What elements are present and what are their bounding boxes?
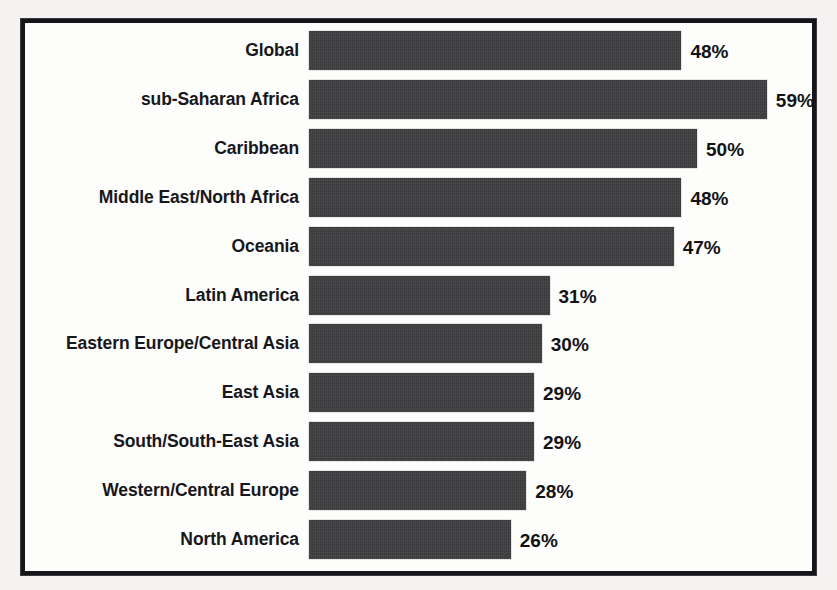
bar-row: Oceania47% <box>25 227 812 266</box>
bar-value-label: 59% <box>767 80 814 119</box>
bar <box>309 324 542 363</box>
bar-track: Caribbean50% <box>309 129 812 168</box>
bar <box>309 373 534 412</box>
bar-value-label: 47% <box>674 227 721 266</box>
bar-row: South/South-East Asia29% <box>25 422 812 461</box>
bar-row: North America26% <box>25 520 812 559</box>
bar-row: Middle East/North Africa48% <box>25 178 812 217</box>
bar-row: East Asia29% <box>25 373 812 412</box>
bar-row: Caribbean50% <box>25 129 812 168</box>
category-label: Middle East/North Africa <box>99 178 309 217</box>
bar-track: Latin America31% <box>309 276 812 315</box>
bar <box>309 422 534 461</box>
bar-row: sub-Saharan Africa59% <box>25 80 812 119</box>
bar-row: Western/Central Europe28% <box>25 471 812 510</box>
bar <box>309 129 697 168</box>
bar-row: Global48% <box>25 31 812 70</box>
category-label: East Asia <box>222 373 309 412</box>
plot-area: Global48%sub-Saharan Africa59%Caribbean5… <box>25 23 812 571</box>
category-label: Eastern Europe/Central Asia <box>66 324 309 363</box>
bar-value-label: 31% <box>550 276 597 315</box>
bar-row: Eastern Europe/Central Asia30% <box>25 324 812 363</box>
category-label: South/South-East Asia <box>113 422 309 461</box>
bar-value-label: 29% <box>534 373 581 412</box>
bar <box>309 178 681 217</box>
category-label: sub-Saharan Africa <box>141 80 309 119</box>
bar-value-label: 29% <box>534 422 581 461</box>
category-label: Latin America <box>185 276 309 315</box>
bar-value-label: 48% <box>681 178 728 217</box>
bar <box>309 80 767 119</box>
bar-track: Oceania47% <box>309 227 812 266</box>
bar-track: Middle East/North Africa48% <box>309 178 812 217</box>
category-label: Caribbean <box>214 129 309 168</box>
bar-value-label: 50% <box>697 129 744 168</box>
bar <box>309 520 511 559</box>
bar-value-label: 28% <box>526 471 573 510</box>
bar-track: North America26% <box>309 520 812 559</box>
bar-chart-figure: Global48%sub-Saharan Africa59%Caribbean5… <box>0 0 837 590</box>
bar-track: Western/Central Europe28% <box>309 471 812 510</box>
bar-value-label: 26% <box>511 520 558 559</box>
bar-track: East Asia29% <box>309 373 812 412</box>
bar-row: Latin America31% <box>25 276 812 315</box>
category-label: Western/Central Europe <box>102 471 309 510</box>
bar <box>309 276 550 315</box>
bar-track: Eastern Europe/Central Asia30% <box>309 324 812 363</box>
bar-track: sub-Saharan Africa59% <box>309 80 812 119</box>
category-label: North America <box>180 520 309 559</box>
bar <box>309 31 681 70</box>
category-label: Global <box>245 31 309 70</box>
bar-value-label: 48% <box>681 31 728 70</box>
chart-frame-border: Global48%sub-Saharan Africa59%Caribbean5… <box>21 19 816 575</box>
category-label: Oceania <box>232 227 309 266</box>
bar-value-label: 30% <box>542 324 589 363</box>
bar <box>309 227 674 266</box>
bar-track: South/South-East Asia29% <box>309 422 812 461</box>
bar-track: Global48% <box>309 31 812 70</box>
bar <box>309 471 526 510</box>
